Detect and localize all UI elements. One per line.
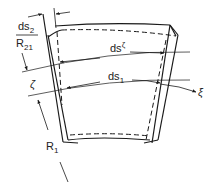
xi-arrow	[160, 84, 196, 92]
thickness-arrow-right	[56, 12, 70, 14]
ds-zeta-arrow-left	[60, 58, 100, 62]
ds1-arrow-left	[67, 82, 100, 88]
bottom-edge-solid	[68, 138, 150, 140]
thickness-tick	[54, 8, 56, 28]
bottom-right-corner	[144, 140, 158, 143]
arc-lower	[28, 80, 190, 96]
r1-leader-lower	[60, 162, 68, 182]
top-edge-solid	[55, 24, 170, 26]
label-ds2: ds2	[18, 20, 35, 35]
label-xi: ξ	[198, 86, 204, 99]
bottom-dashed	[70, 134, 150, 136]
label-r1: R1	[46, 140, 59, 155]
shell-element-diagram: ds2 R21 ζ R1 dsζ ds1 ξ	[0, 0, 211, 194]
thickness-arrow-left	[28, 14, 42, 17]
label-zeta: ζ	[30, 78, 36, 91]
top-edge-solid-2	[48, 30, 62, 37]
top-dashed	[62, 30, 176, 36]
r1-leader	[38, 100, 48, 130]
label-ds-zeta: dsζ	[110, 40, 126, 54]
dimension-arrows	[22, 8, 196, 182]
bottom-left-corner	[63, 142, 78, 143]
ds2-leader	[22, 53, 27, 70]
right-dashed	[146, 40, 166, 140]
label-r21: R21	[16, 37, 33, 52]
labels: ds2 R21 ζ R1 dsζ ds1 ξ	[16, 20, 204, 155]
